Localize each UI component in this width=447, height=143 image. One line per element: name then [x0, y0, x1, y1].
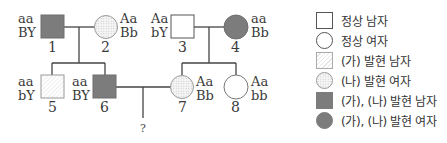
individual-3-genotype: Aa bY — [151, 12, 168, 40]
individual-6-genotype: aa BY — [72, 75, 90, 103]
individual-8-genotype: Aa bb — [251, 75, 268, 103]
individual-1-number: 1 — [48, 39, 57, 55]
legend-item-ga-male: (가) 발현 남자 — [316, 50, 446, 70]
individual-3-number: 3 — [178, 39, 187, 55]
legend-item-normal-female: 정상 여자 — [316, 30, 446, 50]
individual-1-symbol — [41, 15, 64, 38]
individual-8-number: 8 — [231, 99, 240, 115]
legend-item-both-male: (가), (나) 발현 남자 — [316, 90, 446, 110]
individual-7-number: 7 — [178, 99, 187, 115]
individual-6-symbol — [93, 75, 116, 98]
individual-2-number: 2 — [101, 39, 110, 55]
individual-4-symbol — [224, 15, 248, 39]
unknown-child-marker: ? — [140, 122, 146, 135]
individual-5-genotype: aa bY — [18, 75, 35, 103]
filled-circle-icon — [316, 112, 333, 129]
square-icon — [316, 12, 333, 29]
legend-item-normal-male: 정상 남자 — [316, 10, 446, 30]
individual-3-symbol — [171, 15, 194, 38]
hatched-square-icon — [316, 52, 333, 69]
legend-item-na-female: (나) 발현 여자 — [316, 70, 446, 90]
individual-4-number: 4 — [231, 39, 240, 55]
filled-square-icon — [316, 92, 333, 109]
individual-7-symbol — [171, 76, 194, 99]
dotted-circle-icon — [316, 72, 333, 89]
individual-1-genotype: aa BY — [18, 12, 36, 40]
individual-5-number: 5 — [48, 99, 57, 115]
individual-7-genotype: Aa Bb — [196, 75, 214, 103]
individual-2-symbol — [95, 16, 118, 39]
individual-2-genotype: Aa Bb — [120, 12, 138, 40]
individual-5-symbol — [41, 75, 64, 98]
individual-6-number: 6 — [100, 99, 109, 115]
pedigree-diagram: aa BY Aa Bb Aa bY aa Bb aa bY aa BY Aa B… — [0, 0, 447, 143]
circle-icon — [316, 32, 333, 49]
legend-item-both-female: (가), (나) 발현 여자 — [316, 110, 446, 130]
individual-4-genotype: aa Bb — [251, 12, 269, 40]
legend: 정상 남자 정상 여자 (가) 발현 남자 (나) 발현 여자 (가), (나)… — [316, 10, 446, 130]
individual-8-symbol — [224, 75, 248, 99]
